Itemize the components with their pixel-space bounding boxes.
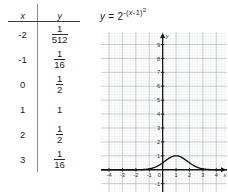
coordinate-graph: -4-3-2-101234987654321-1 xy xyxy=(101,32,227,192)
fraction-denominator: 16 xyxy=(54,160,65,170)
cell-y: 1 xyxy=(39,97,80,122)
table-row: 1 1 xyxy=(8,97,80,122)
fraction-denominator: 2 xyxy=(56,135,63,145)
equation-equals: = xyxy=(105,11,117,22)
table-row: 0 1 2 xyxy=(8,72,80,97)
x-tick-label: 0 xyxy=(158,172,161,178)
x-tick-label: -3 xyxy=(120,172,125,178)
x-tick-label: 4 xyxy=(215,172,218,178)
cell-y: 1 2 xyxy=(39,122,80,147)
value-table-panel: x y -2 1 512 -1 xyxy=(0,0,92,194)
table-row: -2 1 512 xyxy=(8,22,80,48)
fraction: 1 2 xyxy=(56,124,63,144)
fraction: 1 16 xyxy=(54,49,65,69)
y-tick-label: 8 xyxy=(157,56,160,62)
x-axis-label: x xyxy=(223,172,227,178)
cell-x: 3 xyxy=(8,147,38,172)
x-tick-label: -2 xyxy=(133,172,138,178)
fraction: 1 512 xyxy=(52,24,68,44)
y-tick-label: 6 xyxy=(157,83,160,89)
cell-y: 1 16 xyxy=(39,47,80,72)
x-tick-label: 2 xyxy=(188,172,191,178)
table-header-row: x y xyxy=(8,4,80,22)
y-tick-label: 2 xyxy=(157,139,160,145)
y-tick-label: 9 xyxy=(157,42,160,48)
y-tick-label: 5 xyxy=(157,97,160,103)
fraction: 1 16 xyxy=(54,149,65,169)
cell-x: 1 xyxy=(8,97,38,122)
cell-x: 2 xyxy=(8,122,38,147)
equation-exponent: -(x-1)2 xyxy=(123,8,146,17)
y-tick-label: 1 xyxy=(157,153,160,159)
fraction: 1 2 xyxy=(56,74,63,94)
table-row: -1 1 16 xyxy=(8,47,80,72)
fraction-denominator: 512 xyxy=(52,35,68,45)
cell-x: 0 xyxy=(8,72,38,97)
x-tick-label: -4 xyxy=(107,172,112,178)
exponent-power: 2 xyxy=(143,6,147,13)
equation-label: y=2-(x-1)2 xyxy=(100,10,147,22)
y-axis-label: y xyxy=(165,33,169,39)
y-tick-label: -1 xyxy=(155,181,160,187)
whole-number: 1 xyxy=(57,104,62,115)
y-tick-label: 3 xyxy=(157,125,160,131)
fraction-denominator: 2 xyxy=(56,85,63,95)
graph-svg: -4-3-2-101234987654321-1 xy xyxy=(101,32,227,192)
cell-x: -2 xyxy=(8,22,38,48)
table-row: 3 1 16 xyxy=(8,147,80,172)
cell-y: 1 16 xyxy=(39,147,80,172)
x-tick-label: 1 xyxy=(175,172,178,178)
cell-x: -1 xyxy=(8,47,38,72)
table-row: 2 1 2 xyxy=(8,122,80,147)
cell-y: 1 2 xyxy=(39,72,80,97)
worksheet-figure: x y -2 1 512 -1 xyxy=(0,0,228,194)
y-tick-label: 7 xyxy=(157,69,160,75)
column-header-x: x xyxy=(8,4,38,22)
column-header-y: y xyxy=(39,4,80,22)
fraction-denominator: 16 xyxy=(54,60,65,70)
value-table: x y -2 1 512 -1 xyxy=(8,4,80,172)
cell-y: 1 512 xyxy=(39,22,80,48)
x-tick-label: -1 xyxy=(147,172,152,178)
x-tick-label: 3 xyxy=(201,172,204,178)
y-tick-label: 4 xyxy=(157,111,160,117)
